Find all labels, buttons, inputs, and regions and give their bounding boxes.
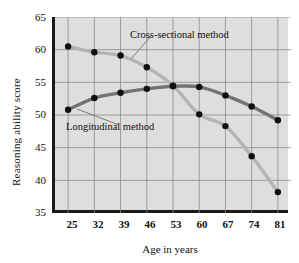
series-label-cross-sectional: Cross-sectional method	[130, 30, 229, 41]
y-tick-label: 60	[0, 44, 46, 55]
x-tick-label: 81	[265, 219, 295, 230]
y-tick-label: 55	[0, 77, 46, 88]
series-label-longitudinal: Longitudinal method	[66, 122, 154, 133]
gridlines	[55, 17, 291, 213]
y-axis-tick-labels: 65 60 55 50 45 40 35	[0, 0, 50, 263]
chart-figure: Reasoning ability score 65 60 55 50 45 4…	[0, 0, 299, 263]
chart-canvas	[55, 17, 291, 213]
x-axis-title: Age in years	[45, 243, 295, 255]
y-tick-label: 35	[0, 207, 46, 218]
y-tick-label: 65	[0, 12, 46, 23]
y-tick-label: 50	[0, 109, 46, 120]
plot-area	[52, 17, 288, 213]
y-tick-label: 45	[0, 142, 46, 153]
y-tick-label: 40	[0, 175, 46, 186]
